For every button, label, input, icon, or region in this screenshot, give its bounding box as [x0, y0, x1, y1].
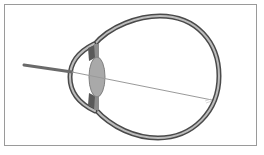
eye-diagram — [0, 0, 264, 155]
light-ray — [24, 65, 212, 103]
sclera-wall — [93, 16, 219, 138]
